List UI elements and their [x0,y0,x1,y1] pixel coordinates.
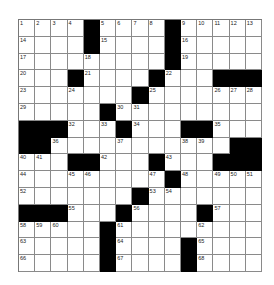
grid-cell[interactable]: 32 [68,121,84,138]
grid-cell[interactable] [51,255,67,272]
grid-cell[interactable] [132,255,148,272]
grid-cell[interactable]: 41 [35,154,51,171]
grid-cell[interactable] [35,37,51,54]
grid-cell[interactable]: 65 [197,238,213,255]
grid-cell[interactable] [149,255,165,272]
grid-cell[interactable]: 28 [246,87,262,104]
grid-cell[interactable] [246,121,262,138]
grid-cell[interactable] [197,171,213,188]
grid-cell[interactable] [116,70,132,87]
grid-cell[interactable] [84,138,100,155]
grid-cell[interactable] [68,104,84,121]
grid-cell[interactable]: 53 [149,188,165,205]
grid-cell[interactable] [132,138,148,155]
grid-cell[interactable] [165,87,181,104]
grid-cell[interactable]: 30 [116,104,132,121]
grid-cell[interactable]: 25 [149,87,165,104]
grid-cell[interactable] [213,222,229,239]
grid-cell[interactable]: 7 [132,20,148,37]
grid-cell[interactable]: 61 [116,222,132,239]
grid-cell[interactable]: 49 [213,171,229,188]
grid-cell[interactable] [51,154,67,171]
grid-cell[interactable] [132,222,148,239]
grid-cell[interactable] [35,238,51,255]
grid-cell[interactable] [165,255,181,272]
grid-cell[interactable] [149,222,165,239]
grid-cell[interactable] [149,238,165,255]
grid-cell[interactable] [100,138,116,155]
grid-cell[interactable] [197,70,213,87]
grid-cell[interactable] [51,104,67,121]
grid-cell[interactable] [132,70,148,87]
grid-cell[interactable] [149,54,165,71]
grid-cell[interactable] [51,171,67,188]
grid-cell[interactable] [213,37,229,54]
grid-cell[interactable]: 43 [165,154,181,171]
grid-cell[interactable] [68,37,84,54]
grid-cell[interactable]: 66 [19,255,35,272]
grid-cell[interactable] [132,54,148,71]
grid-cell[interactable] [35,171,51,188]
grid-cell[interactable]: 59 [35,222,51,239]
grid-cell[interactable] [35,104,51,121]
grid-cell[interactable]: 21 [84,70,100,87]
grid-cell[interactable] [116,171,132,188]
grid-cell[interactable] [68,138,84,155]
grid-cell[interactable] [230,37,246,54]
grid-cell[interactable] [213,54,229,71]
grid-cell[interactable] [197,154,213,171]
grid-cell[interactable]: 34 [132,121,148,138]
grid-cell[interactable] [165,238,181,255]
grid-cell[interactable] [165,121,181,138]
grid-cell[interactable]: 68 [197,255,213,272]
grid-cell[interactable] [230,222,246,239]
grid-cell[interactable] [132,154,148,171]
grid-cell[interactable] [230,238,246,255]
grid-cell[interactable] [165,205,181,222]
grid-cell[interactable]: 63 [19,238,35,255]
grid-cell[interactable] [51,70,67,87]
grid-cell[interactable] [149,104,165,121]
grid-cell[interactable]: 42 [100,154,116,171]
grid-cell[interactable]: 19 [181,54,197,71]
grid-cell[interactable] [51,238,67,255]
grid-cell[interactable] [181,205,197,222]
grid-cell[interactable]: 55 [68,205,84,222]
grid-cell[interactable] [100,205,116,222]
grid-cell[interactable] [149,138,165,155]
grid-cell[interactable] [230,121,246,138]
grid-cell[interactable] [68,238,84,255]
grid-cell[interactable]: 10 [197,20,213,37]
grid-cell[interactable] [149,205,165,222]
grid-cell[interactable]: 50 [230,171,246,188]
grid-cell[interactable] [132,171,148,188]
grid-cell[interactable]: 64 [116,238,132,255]
grid-cell[interactable]: 37 [116,138,132,155]
grid-cell[interactable]: 17 [19,54,35,71]
grid-cell[interactable]: 23 [19,87,35,104]
grid-cell[interactable] [165,138,181,155]
grid-cell[interactable] [51,87,67,104]
grid-cell[interactable] [84,255,100,272]
grid-cell[interactable] [181,70,197,87]
grid-cell[interactable] [116,87,132,104]
grid-cell[interactable] [35,70,51,87]
grid-cell[interactable]: 54 [165,188,181,205]
grid-cell[interactable] [116,37,132,54]
grid-cell[interactable] [213,255,229,272]
grid-cell[interactable] [165,222,181,239]
grid-cell[interactable] [246,255,262,272]
grid-cell[interactable]: 16 [181,37,197,54]
grid-cell[interactable] [181,104,197,121]
grid-cell[interactable] [246,37,262,54]
grid-cell[interactable]: 39 [197,138,213,155]
grid-cell[interactable]: 27 [230,87,246,104]
grid-cell[interactable] [51,188,67,205]
grid-cell[interactable]: 57 [213,205,229,222]
grid-cell[interactable]: 13 [246,20,262,37]
grid-cell[interactable] [35,188,51,205]
grid-cell[interactable]: 31 [132,104,148,121]
grid-cell[interactable]: 29 [19,104,35,121]
grid-cell[interactable] [68,188,84,205]
grid-cell[interactable]: 4 [68,20,84,37]
